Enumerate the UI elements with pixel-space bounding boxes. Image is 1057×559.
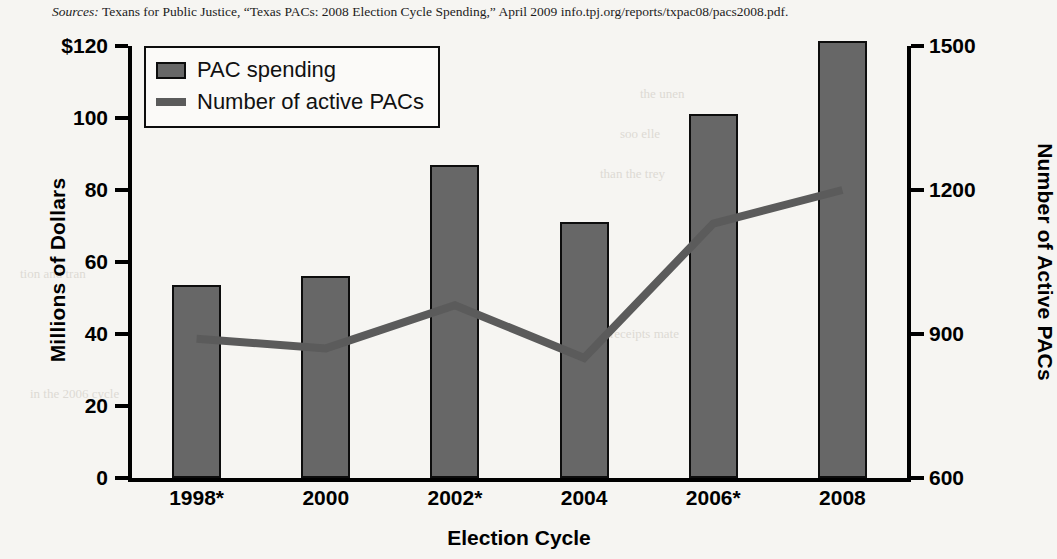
legend-item-active-pacs: Number of active PACs	[156, 87, 424, 117]
left-axis-tick-label: 60	[85, 251, 108, 272]
x-axis-tick-label: 2008	[782, 486, 902, 510]
left-axis-tick	[115, 404, 128, 408]
x-axis-baseline	[128, 478, 911, 482]
left-axis-tick	[115, 260, 128, 264]
bar-swatch-icon	[156, 62, 186, 79]
right-axis-tick	[911, 188, 924, 192]
left-axis-title: Millions of Dollars	[46, 150, 70, 390]
left-axis-tick	[115, 44, 128, 48]
chart-figure: the unen soo elle than the trey tion and…	[0, 26, 1038, 559]
source-text: Texans for Public Justice, “Texas PACs: …	[102, 4, 789, 19]
right-axis-tick	[911, 332, 924, 336]
left-axis-tick-label: $120	[61, 35, 108, 56]
legend-item-pac-spending: PAC spending	[156, 55, 424, 85]
source-note: Sources: Texans for Public Justice, “Tex…	[52, 2, 1012, 22]
left-axis-tick-label: 100	[73, 107, 108, 128]
left-axis-tick	[115, 188, 128, 192]
x-axis-title: Election Cycle	[0, 526, 1038, 550]
chart-legend: PAC spending Number of active PACs	[144, 46, 440, 128]
x-axis-tick-label: 2006*	[653, 486, 773, 510]
right-axis-tick-label: 900	[929, 323, 964, 344]
left-axis-tick	[115, 332, 128, 336]
left-axis-tick-label: 80	[85, 179, 108, 200]
right-axis-tick	[911, 476, 924, 480]
left-axis-tick-label: 0	[96, 467, 108, 488]
right-axis-tick-label: 600	[929, 467, 964, 488]
legend-label: Number of active PACs	[197, 91, 424, 113]
legend-label: PAC spending	[197, 59, 336, 81]
x-axis-tick-label: 2002*	[395, 486, 515, 510]
right-axis-tick-label: 1200	[929, 179, 976, 200]
x-axis-tick-label: 2004	[524, 486, 644, 510]
right-axis-tick	[911, 44, 924, 48]
right-axis-title: Number of Active PACs	[1033, 122, 1057, 402]
right-axis-tick-label: 1500	[929, 35, 976, 56]
right-axis-spine	[907, 46, 911, 478]
left-axis-tick	[115, 116, 128, 120]
left-axis-tick	[115, 476, 128, 480]
source-label: Sources:	[52, 4, 99, 19]
line-swatch-icon	[156, 98, 186, 106]
x-axis-tick-label: 1998*	[137, 486, 257, 510]
left-axis-tick-label: 40	[85, 323, 108, 344]
left-axis-tick-label: 20	[85, 395, 108, 416]
x-axis-tick-label: 2000	[266, 486, 386, 510]
